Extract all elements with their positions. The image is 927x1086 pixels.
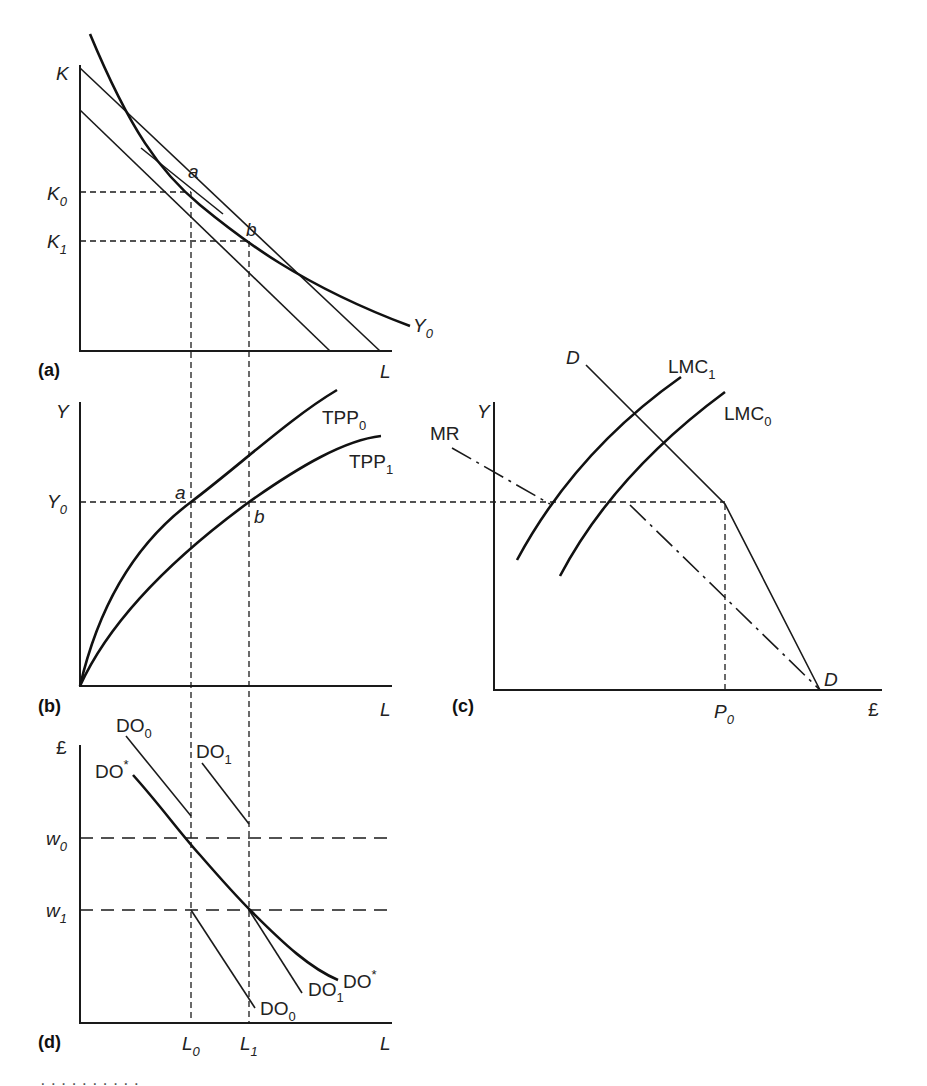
l0-label: L0 xyxy=(182,1033,201,1059)
k-axis-label: K xyxy=(56,63,70,84)
panel-c-axes xyxy=(494,402,882,690)
demand-top-label: D xyxy=(566,347,580,368)
do0-lower-segment xyxy=(191,910,255,1008)
panel-c-y-axis-label: Y xyxy=(477,401,491,422)
do-star-top-label: DO* xyxy=(95,757,129,782)
demand-bottom-label: D xyxy=(824,669,838,690)
point-a-label: a xyxy=(175,482,186,503)
panel-a-tag: (a) xyxy=(38,360,60,380)
point-b-label: b xyxy=(246,219,257,240)
panel-a-isoquant: K K0 K1 a b Y0 L (a) xyxy=(38,34,434,382)
y0-label: Y0 xyxy=(47,491,68,517)
mr-upper-segment xyxy=(452,448,550,504)
lmc1-curve xyxy=(517,377,681,560)
do0-bottom-label: DO0 xyxy=(260,998,296,1024)
pound-axis-label: £ xyxy=(56,737,67,758)
lmc1-label: LMC1 xyxy=(668,356,715,382)
mr-lower-segment xyxy=(630,505,820,690)
l1-label: L1 xyxy=(240,1033,258,1059)
do-star-bottom-label: DO* xyxy=(343,967,377,992)
panel-d-tag: (d) xyxy=(38,1032,61,1052)
do1-upper-segment xyxy=(202,763,249,824)
w0-label: w0 xyxy=(46,828,68,854)
isocost-line-flat xyxy=(80,110,330,351)
do0-top-label: DO0 xyxy=(116,715,152,741)
panel-c-tag: (c) xyxy=(452,696,474,716)
economics-diagram: K K0 K1 a b Y0 L (a) Y Y0 a b TPP0 TPP1 … xyxy=(0,0,927,1086)
point-a-label: a xyxy=(188,161,199,182)
pound-axis-label: £ xyxy=(868,699,879,720)
point-b-label: b xyxy=(254,506,265,527)
panel-b-production: Y Y0 a b TPP0 TPP1 L (b) xyxy=(38,390,725,720)
do1-top-label: DO1 xyxy=(196,741,232,767)
isoquant-y0 xyxy=(90,34,410,326)
panel-d-labour-demand: £ w0 w1 DO0 DO1 DO* DO0 DO1 DO* L0 L1 L … xyxy=(38,715,392,1059)
tpp0-curve xyxy=(80,390,337,686)
tpp1-label: TPP1 xyxy=(349,451,393,477)
tpp1-curve xyxy=(80,436,381,686)
do1-bottom-label: DO1 xyxy=(308,979,344,1005)
figure-caption-clipped: · · · · · · · · · · xyxy=(40,1074,139,1086)
panel-b-l-axis-label: L xyxy=(380,699,391,720)
y0-curve-label: Y0 xyxy=(413,315,434,341)
k1-label: K1 xyxy=(47,231,67,257)
p0-label: P0 xyxy=(714,701,735,727)
k0-label: K0 xyxy=(47,183,68,209)
w1-label: w1 xyxy=(46,900,67,926)
lmc0-label: LMC0 xyxy=(724,403,771,429)
panel-b-tag: (b) xyxy=(38,696,61,716)
lmc0-curve xyxy=(560,392,725,576)
mr-label: MR xyxy=(430,423,460,444)
tpp0-label: TPP0 xyxy=(322,407,366,433)
panel-d-l-axis-label: L xyxy=(380,1033,391,1054)
panel-a-axes xyxy=(80,65,392,351)
panel-c-market: Y MR D LMC1 LMC0 D P0 £ (c) xyxy=(430,347,882,727)
kinked-demand-curve xyxy=(586,365,820,690)
panel-a-l-axis-label: L xyxy=(380,361,391,382)
y-axis-label: Y xyxy=(56,401,70,422)
